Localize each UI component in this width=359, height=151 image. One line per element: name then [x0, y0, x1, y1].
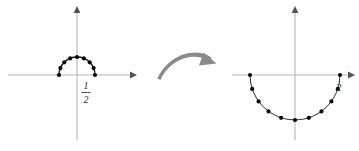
domain-sample-point	[88, 60, 92, 64]
image-sample-point	[279, 116, 283, 120]
image-sample-point	[338, 73, 342, 77]
domain-sample-point	[82, 56, 86, 60]
image-plane: 2	[232, 6, 355, 140]
domain-sample-point	[92, 66, 96, 70]
image-sample-point	[257, 99, 261, 103]
figure-canvas: 1 2	[0, 0, 359, 151]
image-sample-point	[250, 87, 254, 91]
domain-sample-point	[75, 55, 79, 59]
domain-sample-point	[57, 73, 61, 77]
domain-y-axis	[74, 6, 81, 140]
domain-sample-point	[68, 56, 72, 60]
domain-x-axis-arrowhead	[130, 72, 137, 79]
image-x-axis-arrowhead	[348, 72, 355, 79]
image-sample-point	[329, 99, 333, 103]
domain-radius-label: 1 2	[82, 80, 91, 105]
mapping-arrow	[158, 52, 217, 80]
image-sample-point	[307, 116, 311, 120]
domain-x-axis	[8, 72, 137, 79]
domain-sample-point	[58, 66, 62, 70]
image-sample-point	[293, 118, 297, 122]
image-y-axis-arrowhead	[292, 6, 299, 13]
image-sample-point	[248, 73, 252, 77]
domain-y-axis-arrowhead	[74, 6, 81, 13]
domain-radius-denominator: 2	[84, 94, 89, 105]
domain-sample-point	[62, 60, 66, 64]
domain-radius-numerator: 1	[84, 80, 89, 91]
domain-plane: 1 2	[8, 6, 137, 140]
image-sample-point	[266, 109, 270, 113]
domain-sample-point	[93, 73, 97, 77]
image-radius-label: 2	[336, 81, 342, 93]
image-sample-point	[319, 109, 323, 113]
